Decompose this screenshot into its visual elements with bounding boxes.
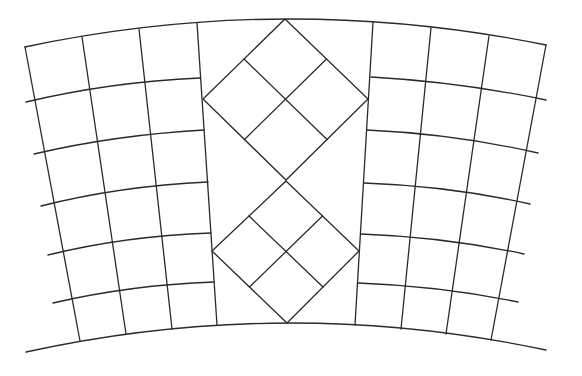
left-horizontal-arc	[53, 282, 214, 303]
right-horizontal-arc	[358, 283, 518, 302]
left-grid-panel	[25, 23, 217, 341]
left-horizontal-arc	[34, 130, 204, 154]
outer-top-arc	[25, 19, 546, 47]
left-vertical-line	[197, 23, 217, 325]
right-horizontal-arc	[371, 77, 546, 100]
right-vertical-line	[355, 22, 373, 325]
right-vertical-line	[446, 36, 489, 334]
left-vertical-line	[139, 29, 172, 329]
left-horizontal-arc	[41, 182, 208, 206]
right-horizontal-arc	[367, 130, 538, 153]
diagram-svg	[0, 0, 582, 376]
left-horizontal-arc	[48, 233, 211, 255]
center-diamond-lattice	[203, 19, 368, 323]
outer-bottom-arc	[26, 323, 546, 352]
right-vertical-line	[491, 45, 546, 340]
right-grid-panel	[355, 22, 546, 340]
left-vertical-line	[82, 37, 126, 334]
right-vertical-line	[401, 28, 431, 329]
left-vertical-line	[25, 47, 80, 341]
left-horizontal-arc	[26, 78, 200, 102]
right-horizontal-arc	[361, 234, 524, 254]
right-horizontal-arc	[364, 183, 530, 204]
arched-grid-diagram	[0, 0, 582, 376]
